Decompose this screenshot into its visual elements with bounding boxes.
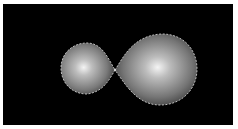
- large-sphere: [115, 34, 197, 105]
- contact-point: [114, 69, 116, 71]
- small-sphere: [61, 43, 115, 94]
- spheres-figure: [0, 0, 238, 129]
